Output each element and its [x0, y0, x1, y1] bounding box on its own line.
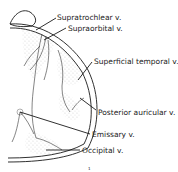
stippled-regions — [17, 28, 82, 155]
label-supraorbital: Supraorbital v. — [68, 24, 123, 33]
scalp-veins-diagram: Supratrochlear v. Supraorbital v. Superf… — [0, 0, 178, 172]
label-superficial-temporal: Superficial temporal v. — [94, 57, 178, 66]
page-marker: 1 — [88, 166, 91, 171]
label-supratrochlear: Supratrochlear v. — [57, 13, 121, 22]
skull-outline — [8, 11, 97, 162]
label-occipital: Occipital v. — [82, 146, 123, 155]
label-posterior-auricular: Posterior auricular v. — [98, 108, 175, 117]
label-emissary: Emissary v. — [92, 130, 135, 139]
